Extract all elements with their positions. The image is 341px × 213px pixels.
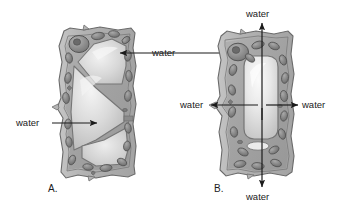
- cell-b-water-label-bottom: water: [246, 192, 269, 202]
- cell-a-strand: [124, 116, 133, 121]
- cell-b-nucleolus: [232, 47, 240, 54]
- panel-b-caption: B.: [214, 184, 223, 194]
- cell-a-water-label-mid: water: [16, 118, 39, 128]
- panel-a-caption: A.: [48, 184, 57, 194]
- cell-b-water-label-top: water: [246, 9, 269, 19]
- cell-b-water-label-right: water: [302, 100, 325, 110]
- cell-b-water-label-left: water: [180, 100, 203, 110]
- cell-a-water-label-top: water: [152, 48, 175, 58]
- cell-b-vesicle: [247, 142, 269, 150]
- cell-a-nucleolus: [73, 39, 80, 45]
- cell-b-group: [209, 23, 298, 187]
- plant-cell-water-diagram: [0, 0, 341, 213]
